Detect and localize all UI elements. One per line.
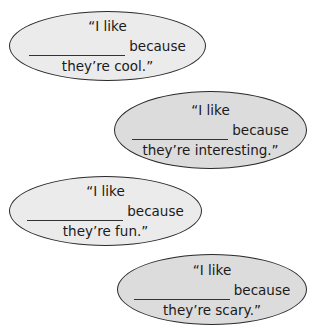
- speech-bubble-cool: “I like because they’re cool.”: [9, 11, 206, 81]
- bubble-line-1: “I like: [88, 16, 126, 36]
- bubble-line-2: because: [27, 201, 183, 221]
- because-text: because: [232, 120, 288, 140]
- because-text: because: [129, 36, 185, 56]
- blank-line[interactable]: [27, 206, 123, 221]
- bubble-line-1: “I like: [86, 181, 124, 201]
- bubble-line-3: they’re cool.”: [62, 56, 153, 76]
- bubble-line-2: because: [134, 280, 290, 300]
- blank-line[interactable]: [134, 285, 230, 300]
- because-text: because: [127, 201, 183, 221]
- bubble-line-3: they’re fun.”: [63, 221, 148, 241]
- bubble-line-3: they’re interesting.”: [142, 140, 278, 160]
- bubble-line-2: because: [29, 36, 185, 56]
- bubble-line-2: because: [132, 120, 288, 140]
- speech-bubble-scary: “I like because they’re scary.”: [117, 254, 307, 325]
- bubble-line-1: “I like: [193, 260, 231, 280]
- speech-bubble-interesting: “I like because they’re interesting.”: [114, 91, 307, 169]
- blank-line[interactable]: [132, 125, 228, 140]
- because-text: because: [234, 280, 290, 300]
- bubble-line-1: “I like: [191, 100, 229, 120]
- bubble-line-3: they’re scary.”: [163, 300, 261, 320]
- blank-line[interactable]: [29, 41, 125, 56]
- speech-bubble-fun: “I like because they’re fun.”: [9, 176, 202, 246]
